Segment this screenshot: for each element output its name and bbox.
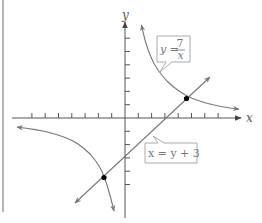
y-axis-ticks	[125, 38, 130, 184]
hyperbola-label-callout: y = 7 x	[157, 36, 190, 72]
line-x-equals-y-plus-3	[75, 77, 210, 203]
line-label-callout: x = y + 3	[145, 136, 200, 163]
y-axis-label: y	[121, 8, 129, 22]
intersection-point-lower	[101, 175, 106, 180]
graph-canvas: y x y = 7 x x = y + 3	[0, 0, 262, 223]
hyperbola-label-denominator: x	[177, 49, 184, 62]
hyperbola-lower-branch	[17, 127, 114, 211]
line-label-text: x = y + 3	[148, 147, 200, 160]
intersection-point-upper	[184, 96, 189, 101]
x-axis-label: x	[246, 111, 253, 125]
